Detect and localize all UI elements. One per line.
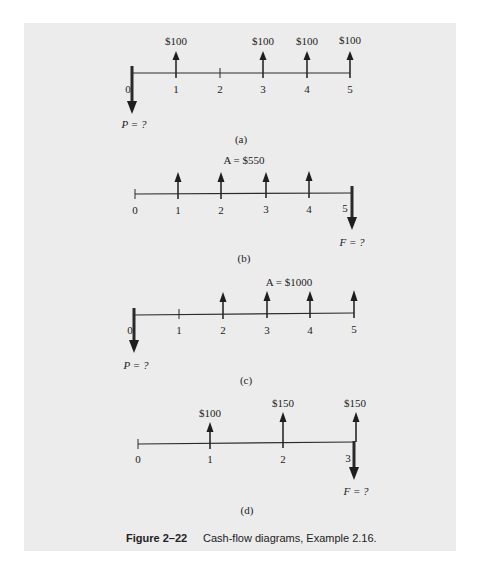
up-arrow-icon <box>304 51 311 78</box>
up-arrow-icon <box>173 51 180 78</box>
period-label: 1 <box>207 453 213 465</box>
up-arrow-icon <box>207 422 214 449</box>
up-arrow-icon <box>218 172 225 199</box>
period-label: 3 <box>345 452 351 464</box>
time-axis <box>138 442 355 444</box>
annuity-label: A = $1000 <box>266 276 313 288</box>
diagram-d-labels: 0 1 2 3 $100 $150 $150 F = ? (d) <box>135 397 369 517</box>
period-label: 3 <box>263 203 269 215</box>
up-arrow-icon <box>260 51 267 78</box>
diagram-label: (c) <box>240 374 253 387</box>
period-label: 1 <box>175 204 181 216</box>
period-label: 3 <box>264 324 270 336</box>
cash-flow-value: $100 <box>339 34 362 46</box>
figure-caption-text: Cash-flow diagrams, Example 2.16. <box>203 532 377 544</box>
diagram-b-labels: 0 1 2 3 4 5 A = $550 F = ? (b) <box>132 154 365 265</box>
diagram-c-labels: 0 1 2 3 4 5 A = $1000 P = ? (c) <box>123 276 358 387</box>
diagram-c <box>129 290 358 353</box>
period-label: 5 <box>347 83 353 95</box>
period-label: 0 <box>125 83 131 95</box>
unknown-future-value: F = ? <box>342 485 369 497</box>
cash-flow-figure: 0 1 2 3 4 5 $100 $100 $100 $100 P = ? (a… <box>0 0 481 567</box>
cash-flow-value: $150 <box>272 397 295 409</box>
period-label: 0 <box>132 204 138 216</box>
diagram-b <box>135 171 357 230</box>
time-axis <box>135 193 352 194</box>
period-label: 4 <box>304 83 310 95</box>
time-axis <box>134 313 354 315</box>
unknown-present-value: P = ? <box>121 118 147 130</box>
cash-flow-value: $150 <box>344 397 367 409</box>
period-label: 2 <box>217 83 223 95</box>
diagram-label: (d) <box>241 504 254 517</box>
diagram-label: (a) <box>235 133 248 146</box>
unknown-future-value: F = ? <box>338 236 365 248</box>
up-arrow-icon <box>353 412 360 442</box>
up-arrow-icon <box>306 171 313 198</box>
period-label: 1 <box>176 324 182 336</box>
up-arrow-icon <box>263 172 270 198</box>
period-label: 4 <box>306 203 312 215</box>
period-label: 2 <box>220 324 226 336</box>
cash-flow-value: $100 <box>199 407 222 419</box>
period-label: 5 <box>342 202 348 214</box>
cash-flow-value: $100 <box>165 35 188 47</box>
period-label: 2 <box>218 204 224 216</box>
period-label: 1 <box>173 83 179 95</box>
diagram-d <box>138 412 360 480</box>
figure-caption: Figure 2–22 Cash-flow diagrams, Example … <box>126 532 377 544</box>
figure-number: Figure 2–22 <box>126 532 187 544</box>
unknown-present-value: P = ? <box>123 359 149 371</box>
period-label: 2 <box>280 453 286 465</box>
diagram-label: (b) <box>238 252 251 265</box>
up-arrow-icon <box>347 51 354 78</box>
diagram-a-labels: 0 1 2 3 4 5 $100 $100 $100 $100 P = ? (a… <box>121 34 362 146</box>
up-arrow-icon <box>351 290 358 318</box>
period-label: 0 <box>135 453 141 465</box>
period-label: 4 <box>307 324 313 336</box>
period-label: 3 <box>260 83 266 95</box>
annuity-label: A = $550 <box>223 154 265 166</box>
diagram-a <box>127 51 354 114</box>
up-arrow-icon <box>175 172 182 199</box>
period-label: 0 <box>127 324 133 336</box>
cash-flow-value: $100 <box>296 35 319 47</box>
up-arrow-icon <box>220 292 227 319</box>
period-label: 5 <box>351 323 357 335</box>
cash-flow-value: $100 <box>252 35 275 47</box>
